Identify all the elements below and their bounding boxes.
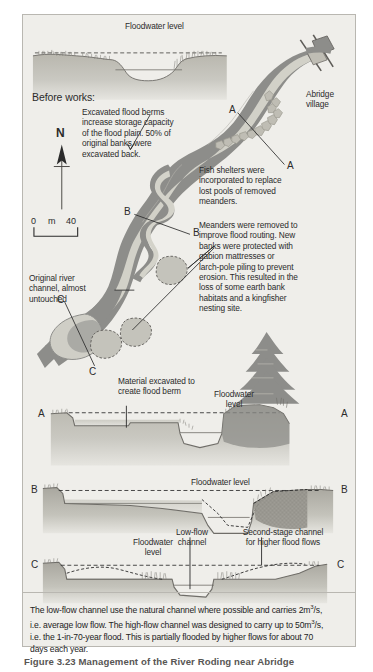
- annotation-flood-berms: Excavated flood berms increase storage c…: [82, 107, 217, 159]
- caption-line-1: The low-flow channel use the natural cha…: [30, 601, 348, 616]
- caption-line-3: i.e. the 1-in-70-year flood. This is par…: [30, 632, 348, 644]
- compass-label: N: [56, 128, 65, 138]
- section-a-left-label: A: [38, 409, 45, 419]
- scale-end-label: 40: [66, 216, 76, 226]
- caption-divider: [23, 592, 355, 593]
- map-marker-b-left: B: [124, 207, 131, 217]
- caption-block: The low-flow channel use the natural cha…: [22, 595, 356, 659]
- village-label: Abridge village: [306, 89, 354, 110]
- caption-line-2: i.e. average low flow. The high-flow cha…: [30, 616, 348, 631]
- section-b-artwork: [43, 484, 333, 534]
- annotation-fish-shelters: Fish shelters were incorporated to repla…: [199, 165, 329, 207]
- section-a-floodwater-label: Floodwater level: [203, 389, 265, 410]
- section-c-right-label: C: [337, 560, 344, 570]
- section-c-secondstage-label: Second-stage channel for higher flood fl…: [223, 527, 343, 548]
- compass-rose: [54, 145, 70, 210]
- caption-line-4: days each year.: [30, 644, 348, 656]
- diagram-panel: Floodwater level Before works: Excavated…: [22, 14, 356, 647]
- scale-unit-label: m: [48, 216, 55, 226]
- figure-root: Floodwater level Before works: Excavated…: [0, 0, 373, 672]
- section-a-right-label: A: [341, 409, 348, 419]
- scale-start-label: 0: [31, 216, 36, 226]
- annotation-meanders-removed: Meanders were removed to improve flood r…: [199, 220, 339, 314]
- before-works-heading: Before works:: [32, 91, 95, 103]
- section-b-right-label: B: [341, 485, 348, 495]
- map-marker-a-right: A: [287, 161, 294, 171]
- figure-caption: Figure 3.23 Management of the River Rodi…: [24, 656, 364, 672]
- section-b-floodwater-label: Floodwater level: [191, 477, 250, 487]
- map-marker-b-right: B: [193, 228, 200, 238]
- map-marker-c-right: C: [89, 367, 96, 377]
- top-floodwater-label: Floodwater level: [125, 21, 184, 31]
- section-c-lowflow-label: Low-flow channel: [163, 527, 221, 548]
- annotation-original-channel: Original river channel, almost untouched: [29, 273, 127, 304]
- section-b-left-label: B: [31, 485, 38, 495]
- map-marker-a-left: A: [229, 105, 236, 115]
- map-marker-c-left: C: [57, 295, 64, 305]
- section-c-left-label: C: [31, 560, 38, 570]
- scale-bar: [34, 227, 78, 236]
